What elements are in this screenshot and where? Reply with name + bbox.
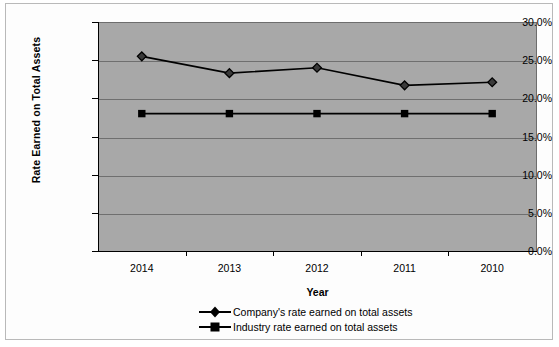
x-axis-tick-label: 2013 [194, 262, 264, 274]
x-axis-tick-label: 2010 [457, 262, 527, 274]
legend-label-company: Company's rate earned on total assets [232, 306, 412, 318]
x-axis-tick-label: 2014 [107, 262, 177, 274]
y-axis-tick-mark [92, 175, 98, 176]
gridline [98, 99, 536, 100]
y-axis-tick-label: 5.0% [498, 207, 552, 219]
x-axis-line [98, 251, 537, 252]
y-axis-tick-mark [92, 22, 98, 23]
y-axis-tick-label: 30.0% [498, 16, 552, 28]
y-axis-tick-label: 0.0% [498, 245, 552, 257]
y-axis-tick-label: 10.0% [498, 169, 552, 181]
gridline [98, 138, 536, 139]
y-axis-tick-mark [92, 98, 98, 99]
legend-diamond-marker-icon [198, 305, 232, 319]
legend-item-industry[interactable]: Industry rate earned on total assets [198, 319, 498, 334]
chart-legend: Company's rate earned on total assets In… [198, 304, 498, 334]
y-axis-tick-mark [92, 137, 98, 138]
x-axis-tick-mark [273, 251, 274, 256]
gridline [98, 61, 536, 62]
x-axis-tick-label: 2012 [282, 262, 352, 274]
gridline [98, 214, 536, 215]
legend-label-industry: Industry rate earned on total assets [232, 321, 398, 333]
y-axis-tick-label: 15.0% [498, 131, 552, 143]
y-axis-tick-mark [92, 60, 98, 61]
y-axis-tick-mark [92, 251, 98, 252]
x-axis-tick-label: 2011 [370, 262, 440, 274]
x-axis-tick-mark [361, 251, 362, 256]
y-axis-tick-label: 20.0% [498, 92, 552, 104]
chart-frame: Rate Earned on Total Assets 30.0%25.0%20… [5, 3, 553, 340]
x-axis-title: Year [98, 286, 537, 298]
y-axis-tick-label: 25.0% [498, 54, 552, 66]
x-axis-tick-mark [448, 251, 449, 256]
y-axis-tick-mark [92, 213, 98, 214]
plot-area [98, 22, 537, 252]
gridline [98, 176, 536, 177]
legend-item-company[interactable]: Company's rate earned on total assets [198, 304, 498, 319]
y-axis-line [98, 22, 99, 252]
legend-square-marker-icon [198, 320, 232, 334]
y-axis-title: Rate Earned on Total Assets [30, 0, 42, 220]
x-axis-tick-mark [186, 251, 187, 256]
